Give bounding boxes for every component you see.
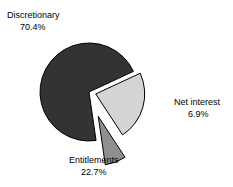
slice-label-entitlements-value: 22.7% — [69, 167, 119, 179]
slice-label-entitlements: Entitlements 22.7% — [69, 155, 119, 178]
slice-label-net-interest-value: 6.9% — [174, 109, 220, 121]
slice-label-discretionary: Discretionary 70.4% — [7, 10, 60, 33]
slice-label-discretionary-value: 70.4% — [7, 22, 60, 34]
pie-chart-figure: Discretionary 70.4% Entitlements 22.7% N… — [0, 0, 233, 187]
slice-label-net-interest: Net interest 6.9% — [174, 97, 220, 120]
slice-label-entitlements-name: Entitlements — [69, 155, 119, 167]
pie-slice-group — [40, 43, 145, 165]
slice-label-discretionary-name: Discretionary — [7, 10, 60, 22]
slice-label-net-interest-name: Net interest — [174, 97, 220, 109]
